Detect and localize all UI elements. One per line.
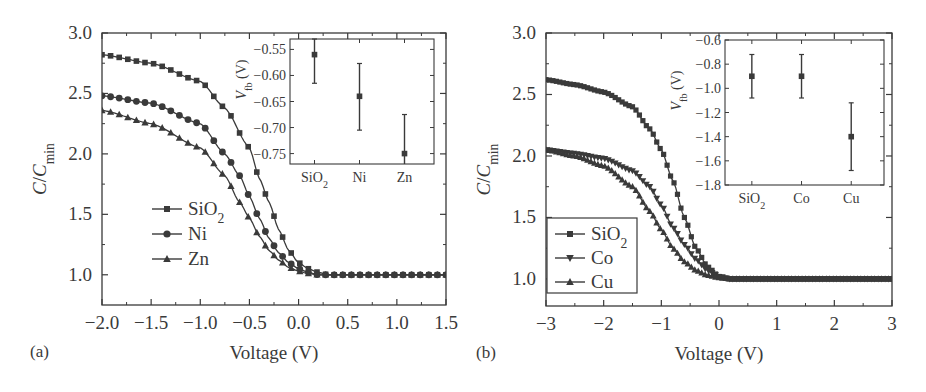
square-marker-icon [312,52,318,58]
inset-frame [290,39,434,164]
circle-marker-icon [142,99,149,106]
legend-label: Co [591,247,613,268]
triangle-up-marker-icon [639,199,646,205]
legend: SiO2NiZn [152,198,225,269]
square-marker-icon [142,60,148,66]
square-marker-icon [99,52,105,58]
inset-frame [725,40,884,185]
circle-marker-icon [271,242,278,249]
triangle-up-marker-icon [227,182,234,189]
circle-marker-icon [99,92,106,99]
square-marker-icon [228,113,234,119]
square-marker-icon [151,61,157,67]
x-tick-label: 0 [714,313,724,334]
inset-x-tick-label: SiO2 [738,191,765,211]
square-marker-icon [567,231,573,237]
square-marker-icon [125,56,131,62]
square-marker-icon [671,180,676,185]
x-tick-label: −1.5 [134,312,168,333]
inset-y-tick-label: −1.4 [696,130,721,145]
square-marker-icon [665,163,670,168]
inset-y-tick-label: −1.2 [696,106,721,121]
y-axis-title: C/Cmin [473,143,501,195]
legend-label: Cu [591,271,614,292]
inset-y-tick-label: −0.70 [254,121,286,136]
circle-marker-icon [262,228,269,235]
x-tick-label: −1.0 [183,312,217,333]
square-marker-icon [799,73,805,79]
square-marker-icon [647,126,652,131]
square-marker-icon [658,146,663,151]
x-axis-title: Voltage (V) [675,343,764,365]
x-tick-label: 1.5 [434,312,458,333]
x-tick-label: 1.0 [385,312,409,333]
square-marker-icon [177,71,183,77]
triangle-up-marker-icon [159,124,166,131]
triangle-up-marker-icon [167,129,174,136]
triangle-up-marker-icon [245,213,252,220]
square-marker-icon [237,130,243,136]
inset-y-tick-label: −0.60 [254,68,286,83]
circle-marker-icon [202,125,209,132]
x-tick-label: −0.5 [232,312,266,333]
triangle-up-marker-icon [176,134,183,141]
figure: −2.0−1.5−1.0−0.50.00.51.01.51.01.52.02.5… [0,0,926,392]
y-tick-label: 2.0 [68,143,92,164]
square-marker-icon [297,260,303,266]
square-marker-icon [164,206,170,212]
y-tick-label: 1.5 [68,203,92,224]
y-tick-label: 1.0 [512,268,536,289]
square-marker-icon [134,58,140,64]
square-marker-icon [194,78,200,84]
square-marker-icon [692,244,697,249]
x-tick-label: −2.0 [85,312,119,333]
circle-marker-icon [167,107,174,114]
square-marker-icon [682,215,687,220]
circle-marker-icon [116,95,123,102]
circle-marker-icon [176,112,183,119]
square-marker-icon [749,73,755,79]
triangle-down-marker-icon [664,214,671,220]
panel-b-chart: −3−2−101231.01.52.02.53.0Voltage (V)C/Cm… [473,22,897,365]
triangle-up-marker-icon [98,107,105,114]
x-tick-label: 2 [830,313,840,334]
square-marker-icon [651,132,656,137]
triangle-up-marker-icon [184,139,191,146]
triangle-up-marker-icon [653,219,660,225]
inset-y-tick-label: −1.0 [696,81,721,96]
square-marker-icon [696,248,701,253]
legend: SiO2CoCu [547,218,637,293]
square-marker-icon [220,103,226,109]
panel-label: (a) [30,342,49,361]
square-marker-icon [280,234,286,240]
square-marker-icon [668,173,673,178]
triangle-up-marker-icon [253,229,260,236]
square-marker-icon [168,67,174,73]
inset-y-tick-label: −0.75 [254,147,286,162]
inset-y-tick-label: −1.6 [696,154,721,169]
triangle-down-marker-icon [650,189,657,195]
inset-x-tick-label: Co [793,191,809,206]
circle-marker-icon [210,137,217,144]
square-marker-icon [848,134,854,140]
square-marker-icon [254,169,260,175]
square-marker-icon [288,250,294,256]
square-marker-icon [159,64,165,70]
inset-chart: −0.6−0.8−1.0−1.2−1.4−1.6−1.8SiO2CoCuVfb … [669,33,884,211]
inset-x-tick-label: SiO2 [301,170,328,190]
square-marker-icon [263,191,269,197]
inset-x-tick-label: Ni [353,170,367,185]
square-marker-icon [116,55,122,61]
y-tick-label: 2.5 [512,83,536,104]
square-marker-icon [685,223,690,228]
circle-marker-icon [236,172,243,179]
legend-item-zn: Zn [152,248,210,269]
inset-x-tick-label: Zn [397,170,413,185]
inset-y-tick-label: −0.8 [696,57,721,72]
square-marker-icon [211,94,217,100]
inset-y-tick-label: −0.55 [254,42,286,57]
circle-marker-icon [228,159,235,166]
panel-label: (b) [476,343,496,362]
y-tick-label: 1.0 [68,264,92,285]
square-marker-icon [633,107,638,112]
